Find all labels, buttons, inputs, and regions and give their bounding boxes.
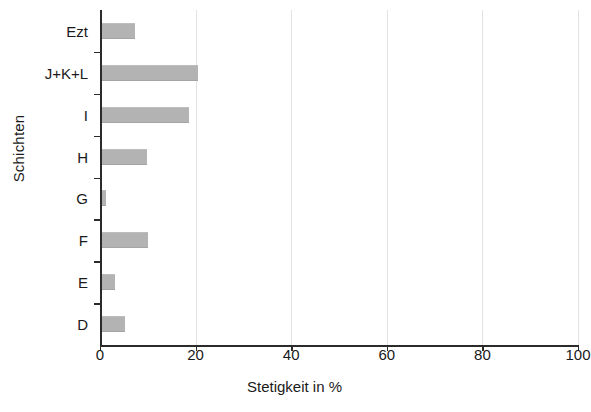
y-tick-5 <box>94 219 100 220</box>
bar-G <box>102 190 107 206</box>
bar-Ezt <box>102 23 135 39</box>
y-tick-label-G: G <box>0 190 88 207</box>
x-axis-line <box>100 345 578 347</box>
y-tick-label-E: E <box>0 274 88 291</box>
bar-I <box>102 107 189 123</box>
gridline-20 <box>196 10 197 345</box>
y-tick-2 <box>94 94 100 95</box>
x-tick-label-0: 0 <box>96 346 104 363</box>
x-tick-label-100: 100 <box>565 346 590 363</box>
bar-F <box>102 232 149 248</box>
y-tick-label-Ezt: Ezt <box>0 22 88 39</box>
x-tick-label-60: 60 <box>378 346 395 363</box>
x-axis-title: Stetigkeit in % <box>0 378 589 395</box>
bar-H <box>102 149 147 165</box>
gridline-60 <box>387 10 388 345</box>
y-axis-line <box>100 10 102 345</box>
y-tick-label-F: F <box>0 232 88 249</box>
y-tick-3 <box>94 136 100 137</box>
gridline-40 <box>291 10 292 345</box>
gridline-80 <box>482 10 483 345</box>
plot-area <box>100 10 578 345</box>
y-tick-label-J+K+L: J+K+L <box>0 64 88 81</box>
y-tick-label-D: D <box>0 316 88 333</box>
x-tick-label-40: 40 <box>283 346 300 363</box>
x-tick-label-20: 20 <box>187 346 204 363</box>
bar-E <box>102 274 116 290</box>
gridline-100 <box>578 10 579 345</box>
y-tick-1 <box>94 52 100 53</box>
bar-J+K+L <box>102 65 198 81</box>
y-tick-label-I: I <box>0 106 88 123</box>
y-tick-4 <box>94 178 100 179</box>
y-tick-label-H: H <box>0 148 88 165</box>
y-tick-7 <box>94 303 100 304</box>
bar-D <box>102 316 125 332</box>
y-tick-6 <box>94 261 100 262</box>
x-tick-label-80: 80 <box>474 346 491 363</box>
